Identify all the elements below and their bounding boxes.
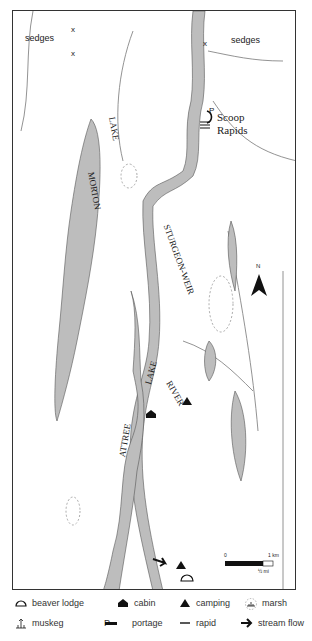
stream-line: [118, 31, 133, 161]
north-label: N: [256, 263, 260, 269]
scale-bar-km: [225, 561, 263, 566]
beaver-lodge-icon: [14, 598, 28, 608]
stream-line: [183, 341, 253, 391]
sedges-right-label: sedges: [231, 35, 260, 45]
stream-line: [21, 11, 33, 131]
camping-icon: [178, 598, 192, 608]
muskeg-icon: [14, 618, 28, 628]
cabin-icon: [116, 598, 130, 608]
legend-label: cabin: [134, 598, 156, 608]
rapid-icon: [178, 618, 192, 628]
legend-label: camping: [196, 598, 230, 608]
stream-line: [208, 51, 283, 61]
legend-item-stream-flow: stream flow: [240, 618, 304, 628]
legend-label: stream flow: [258, 618, 304, 628]
legend-item-rapid: rapid: [178, 618, 216, 628]
sedges-left-label: sedges: [25, 33, 54, 43]
scale-mi: ½ mi: [258, 568, 269, 574]
rapids-label: Rapids: [217, 124, 248, 136]
marsh-icon: [244, 598, 258, 608]
scoop-label: Scoop: [217, 111, 245, 123]
sturgeon-weir-river: [130, 11, 205, 590]
legend-label: rapid: [196, 618, 216, 628]
muskeg-outline: [209, 276, 233, 332]
legend-item-camping: camping: [178, 598, 230, 608]
legend-label: muskeg: [32, 618, 64, 628]
camping-icon: [176, 561, 186, 569]
marsh-outline: [66, 497, 80, 525]
map-frame: MORTON LAKE STURGEON-WEIR LAKE RIVER ATT…: [12, 10, 296, 590]
sedge-marker: x: [71, 49, 75, 58]
scale-zero: 0: [224, 552, 227, 558]
legend-item-cabin: cabin: [116, 598, 156, 608]
scale-km: 1 km: [268, 552, 279, 558]
stream-flow-icon: [240, 618, 254, 628]
legend: beaver lodge cabin camping marsh muskeg …: [14, 594, 304, 638]
north-arrow-icon: [251, 274, 267, 296]
map-canvas: [13, 11, 296, 590]
sedge-marker: x: [203, 39, 207, 48]
portage-icon: [114, 618, 128, 628]
sedge-marker: x: [71, 25, 75, 34]
legend-label: beaver lodge: [32, 598, 84, 608]
portage-marker: P: [209, 106, 214, 115]
beaver-lodge-icon: [181, 575, 193, 581]
legend-item-beaver-lodge: beaver lodge: [14, 598, 84, 608]
legend-label: portage: [132, 618, 163, 628]
legend-item-portage: P portage: [104, 618, 163, 628]
scale-bar-mi: [263, 561, 273, 566]
cabin-icon: [146, 410, 156, 418]
legend-item-marsh: marsh: [244, 598, 287, 608]
legend-item-muskeg: muskeg: [14, 618, 64, 628]
morton-lake: [55, 119, 100, 421]
legend-label: marsh: [262, 598, 287, 608]
small-lake: [231, 391, 246, 481]
small-lake: [205, 341, 216, 381]
marsh-outline: [121, 164, 137, 188]
small-lake: [228, 221, 237, 291]
